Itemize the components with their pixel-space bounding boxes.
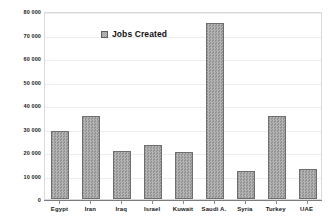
- bar-slot: [292, 13, 322, 199]
- bar[interactable]: [175, 152, 193, 199]
- x-axis-category-label: UAE: [284, 205, 330, 213]
- y-axis-tick-label: 10 000: [0, 174, 41, 180]
- y-axis-tick-label: 20 000: [0, 150, 41, 156]
- bar-slot: [169, 13, 200, 199]
- bar[interactable]: [82, 116, 100, 199]
- x-axis-tick: [59, 200, 60, 204]
- bar-slot: [45, 13, 76, 199]
- y-axis: 010 00020 00030 00040 00050 00060 00070 …: [0, 0, 41, 221]
- x-axis-tick: [276, 200, 277, 204]
- legend-swatch-icon: [101, 31, 108, 38]
- y-axis-tick-label: 60 000: [0, 56, 41, 62]
- bar[interactable]: [206, 23, 224, 199]
- bar[interactable]: [144, 145, 162, 199]
- bar[interactable]: [268, 116, 286, 199]
- x-axis-tick: [152, 200, 153, 204]
- bar[interactable]: [113, 151, 131, 199]
- bar-slot: [199, 13, 230, 199]
- bar-chart: 010 00020 00030 00040 00050 00060 00070 …: [0, 0, 335, 221]
- x-axis-tick: [245, 200, 246, 204]
- bar[interactable]: [237, 171, 255, 199]
- bar[interactable]: [299, 169, 317, 199]
- y-axis-tick-label: 70 000: [0, 33, 41, 39]
- x-axis-tick: [90, 200, 91, 204]
- bar-slot: [138, 13, 169, 199]
- bar-slot: [76, 13, 107, 199]
- legend-label: Jobs Created: [112, 30, 167, 39]
- bar-slot: [230, 13, 261, 199]
- legend: Jobs Created: [101, 30, 167, 39]
- x-axis-tick: [121, 200, 122, 204]
- y-axis-tick-label: 0: [0, 197, 41, 203]
- y-axis-tick-label: 80 000: [0, 9, 41, 15]
- bar-slot: [107, 13, 138, 199]
- y-axis-tick-label: 50 000: [0, 80, 41, 86]
- bar[interactable]: [51, 131, 69, 199]
- bar-slot: [261, 13, 292, 199]
- plot-area: Jobs Created: [44, 12, 322, 200]
- x-axis-tick: [214, 200, 215, 204]
- y-axis-tick-label: 30 000: [0, 127, 41, 133]
- x-axis-tick: [307, 200, 308, 204]
- x-axis-tick: [183, 200, 184, 204]
- y-axis-tick-label: 40 000: [0, 103, 41, 109]
